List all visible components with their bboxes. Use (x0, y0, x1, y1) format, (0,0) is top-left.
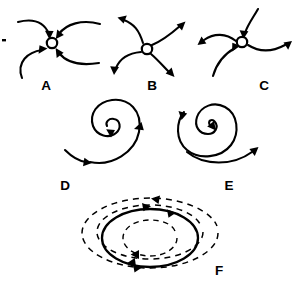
phase-portrait-figure: A B (0, 0, 305, 287)
panel-d-trajectory-tail (65, 150, 86, 162)
panel-a-trajectory-upper-right (59, 22, 100, 34)
panel-f-inner-dashed-trajectory (123, 220, 177, 256)
panel-a-label: A (41, 78, 51, 93)
panel-e-label: E (224, 178, 233, 193)
panel-b-equilibrium-node (142, 44, 152, 54)
panel-b-trajectory-down-left (116, 52, 141, 68)
panel-a-trajectory-lower-left (20, 50, 42, 78)
panel-f-arrowhead-outer-top (151, 196, 160, 205)
panel-e-unstable-spiral: E (178, 104, 259, 193)
panel-b-arrowhead-down-left (110, 66, 119, 75)
panel-e-spiral-path (178, 104, 237, 156)
panel-a-trajectory-lower-right (59, 53, 99, 64)
panel-c-saddle-point: C (198, 9, 293, 93)
panel-b-label: B (147, 78, 157, 93)
panel-d-spiral-path (90, 100, 140, 163)
panel-a-trajectory-upper-left (18, 21, 49, 35)
panel-c-trajectory-in-top (245, 9, 258, 33)
panel-b-trajectory-up-left (124, 20, 143, 43)
phase-portrait-svg: A B (0, 0, 305, 287)
panel-c-arrowhead-out-left (198, 36, 207, 45)
panel-b-trajectory-up-right (152, 26, 180, 45)
panel-f-label: F (215, 263, 223, 278)
panel-a-arrowhead-lower-left (39, 45, 48, 54)
panel-b-unstable-node: B (110, 15, 185, 93)
panel-a-equilibrium-node (47, 38, 57, 48)
panel-f-limit-cycle: F (82, 196, 223, 279)
panel-f-arrowhead-cycle-top (167, 210, 176, 218)
panel-c-label: C (259, 78, 269, 93)
panel-d-stable-spiral: D (60, 100, 144, 193)
panel-d-label: D (60, 178, 70, 193)
panel-f-limit-cycle-orbit (102, 209, 198, 267)
panel-e-arrowhead-outgoing (249, 147, 258, 156)
panel-b-trajectory-down-right (151, 54, 169, 72)
panel-c-trajectory-in-bottom-left (213, 48, 235, 76)
panel-f-middle-dashed-trajectory (97, 205, 203, 259)
panel-a-stable-node: A (18, 21, 100, 94)
stray-speck-mark (2, 39, 6, 41)
panel-c-trajectory-out-left (204, 35, 236, 41)
panel-c-equilibrium-node (237, 37, 247, 47)
panel-c-trajectory-out-right (248, 45, 285, 50)
